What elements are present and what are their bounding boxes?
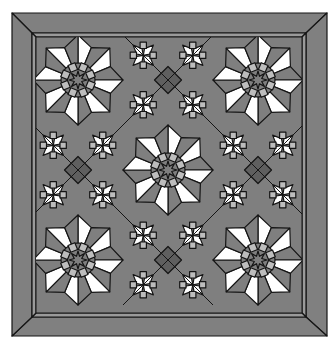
inner-strip xyxy=(32,313,306,317)
petal-square xyxy=(140,222,146,228)
petal-square xyxy=(190,42,196,48)
star-block xyxy=(213,215,303,305)
petal-square xyxy=(220,192,226,198)
petal-square xyxy=(200,52,206,58)
star-block xyxy=(33,215,123,305)
petal-square xyxy=(50,132,56,138)
border-side xyxy=(306,13,327,336)
petal-square xyxy=(90,142,96,148)
inner-strip xyxy=(32,33,306,37)
petal-square xyxy=(40,142,46,148)
petal-square xyxy=(100,182,106,188)
petal-square xyxy=(190,112,196,118)
inner-strip xyxy=(32,33,36,317)
star-block xyxy=(123,125,213,215)
petal-square xyxy=(140,42,146,48)
petal-square xyxy=(60,142,66,148)
star-block xyxy=(213,35,303,125)
petal-square xyxy=(200,232,206,238)
petal-square xyxy=(230,152,236,158)
petal-square xyxy=(200,102,206,108)
petal-square xyxy=(280,152,286,158)
petal-square xyxy=(270,142,276,148)
petal-square xyxy=(180,232,186,238)
petal-square xyxy=(290,142,296,148)
star-center xyxy=(69,71,87,89)
petal-square xyxy=(130,232,136,238)
border-side xyxy=(12,13,327,33)
petal-square xyxy=(230,132,236,138)
petal-square xyxy=(140,112,146,118)
petal-square xyxy=(230,182,236,188)
petal-square xyxy=(180,282,186,288)
petal-square xyxy=(180,52,186,58)
petal-square xyxy=(40,192,46,198)
petal-square xyxy=(140,92,146,98)
petal-square xyxy=(130,102,136,108)
petal-square xyxy=(220,142,226,148)
petal-square xyxy=(230,202,236,208)
petal-square xyxy=(240,142,246,148)
petal-square xyxy=(150,52,156,58)
petal-square xyxy=(280,182,286,188)
border-side xyxy=(12,317,327,336)
petal-square xyxy=(130,282,136,288)
petal-square xyxy=(200,282,206,288)
border-side xyxy=(12,13,32,336)
quilt-illustration xyxy=(0,0,335,348)
petal-square xyxy=(90,192,96,198)
petal-square xyxy=(180,102,186,108)
star-center xyxy=(249,71,267,89)
petal-square xyxy=(280,202,286,208)
petal-square xyxy=(240,192,246,198)
petal-square xyxy=(290,192,296,198)
petal-square xyxy=(110,192,116,198)
star-center xyxy=(249,251,267,269)
petal-square xyxy=(190,242,196,248)
petal-square xyxy=(140,292,146,298)
petal-square xyxy=(150,232,156,238)
quilt-blocks xyxy=(33,35,303,305)
petal-square xyxy=(190,62,196,68)
petal-square xyxy=(190,92,196,98)
petal-square xyxy=(50,182,56,188)
petal-square xyxy=(130,52,136,58)
petal-square xyxy=(190,272,196,278)
petal-square xyxy=(100,202,106,208)
petal-square xyxy=(190,222,196,228)
petal-square xyxy=(50,202,56,208)
petal-square xyxy=(50,152,56,158)
petal-square xyxy=(190,292,196,298)
star-block xyxy=(33,35,123,125)
petal-square xyxy=(100,132,106,138)
petal-square xyxy=(270,192,276,198)
petal-square xyxy=(100,152,106,158)
petal-square xyxy=(60,192,66,198)
inner-strip xyxy=(302,33,306,317)
petal-square xyxy=(280,132,286,138)
petal-square xyxy=(140,62,146,68)
petal-square xyxy=(140,272,146,278)
star-center xyxy=(69,251,87,269)
petal-square xyxy=(150,102,156,108)
petal-square xyxy=(110,142,116,148)
star-center xyxy=(159,161,177,179)
petal-square xyxy=(150,282,156,288)
petal-square xyxy=(140,242,146,248)
